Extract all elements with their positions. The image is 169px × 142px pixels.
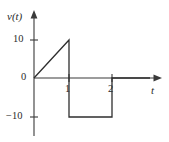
- x-axis-label: t: [151, 85, 154, 96]
- waveform-figure: v(t) t 10 0 −10 1 2: [0, 0, 169, 142]
- x-tick-label-1: 1: [65, 84, 70, 95]
- x-axis-arrowhead-icon: [154, 75, 163, 82]
- y-tick-label-minus-10: −10: [6, 111, 22, 122]
- y-axis-label: v(t): [7, 11, 22, 22]
- y-tick-label-0: 0: [21, 72, 26, 83]
- y-axis-arrowhead-icon: [31, 10, 38, 19]
- x-tick-label-2: 2: [108, 84, 113, 95]
- y-tick-label-10: 10: [13, 34, 24, 45]
